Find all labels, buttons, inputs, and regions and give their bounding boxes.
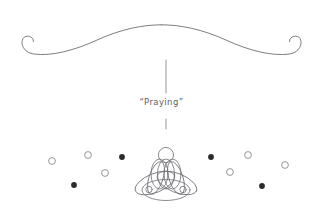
- meditating-figure: [132, 147, 200, 200]
- flourish-divider-ornament: [22, 25, 301, 55]
- dot-filled: [259, 183, 265, 189]
- figure-hand-right-icon: [180, 186, 186, 192]
- dot-hollow: [282, 162, 289, 169]
- dot-hollow: [102, 170, 109, 177]
- dot-hollow: [227, 169, 234, 176]
- flourish-right-curl-icon: [162, 25, 302, 55]
- figure-head-icon: [158, 147, 173, 162]
- figure-lap-base-ellipse: [142, 180, 190, 201]
- dot-hollow: [85, 152, 92, 159]
- dot-filled: [119, 154, 125, 160]
- praying-caption-label: “Praying”: [0, 97, 323, 107]
- illustration-canvas: “Praying”: [0, 0, 323, 210]
- dot-hollow: [245, 152, 252, 159]
- flourish-left-curl-icon: [22, 25, 162, 55]
- dot-cluster-left: [49, 152, 125, 188]
- figure-hand-left-icon: [146, 186, 152, 192]
- dot-hollow: [49, 158, 56, 165]
- dot-cluster-right: [208, 152, 288, 189]
- dot-filled: [208, 154, 214, 160]
- dot-filled: [71, 182, 77, 188]
